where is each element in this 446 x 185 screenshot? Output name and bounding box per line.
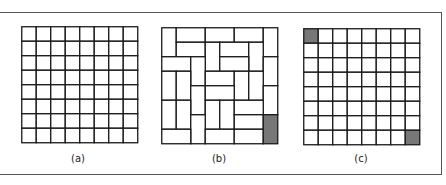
board-cell [51, 128, 66, 143]
board-cell [333, 87, 348, 102]
domino [263, 57, 278, 86]
board-cell [36, 128, 51, 143]
board-cell [94, 128, 109, 143]
board-cell [36, 27, 51, 42]
board-cell [65, 99, 80, 114]
domino [220, 57, 249, 72]
board-cell [391, 87, 406, 102]
board-cell [22, 114, 37, 129]
board-cell [376, 116, 391, 131]
board-cell [36, 41, 51, 56]
board-cell [36, 56, 51, 71]
board-cell [94, 85, 109, 100]
board-cell [347, 58, 362, 73]
board-cell [391, 130, 406, 145]
board-cell [22, 41, 37, 56]
board-cell [109, 99, 124, 114]
grid-c-mutilated-board [303, 28, 421, 146]
domino [220, 100, 235, 129]
board-cell [333, 101, 348, 116]
domino [263, 86, 278, 115]
domino [205, 42, 220, 71]
board-cell [94, 114, 109, 129]
domino [205, 100, 220, 129]
board-cell [94, 99, 109, 114]
domino [220, 42, 249, 57]
board-cell [80, 56, 95, 71]
board-cell [318, 43, 333, 58]
board-cell [304, 130, 319, 145]
board-cell [94, 56, 109, 71]
board-cell [405, 29, 420, 44]
board-cell [333, 130, 348, 145]
domino [263, 28, 278, 57]
domino [162, 71, 177, 100]
board-cell [318, 29, 333, 44]
board-cell [376, 101, 391, 116]
board-cell [123, 41, 138, 56]
board-cell [376, 72, 391, 87]
domino [205, 129, 234, 144]
board-cell [80, 85, 95, 100]
board-cell [405, 72, 420, 87]
board-cell [362, 72, 377, 87]
domino [234, 28, 263, 43]
board-cell [347, 29, 362, 44]
board-cell [405, 43, 420, 58]
board-cell [347, 87, 362, 102]
panel-label-a: (a) [58, 153, 98, 164]
board-cell [304, 58, 319, 73]
board-cell [318, 87, 333, 102]
board-cell [333, 29, 348, 44]
board-cell [405, 58, 420, 73]
board-cell [51, 56, 66, 71]
board-cell [109, 128, 124, 143]
board-cell [318, 116, 333, 131]
board-cell [65, 85, 80, 100]
board-cell [362, 58, 377, 73]
board-cell [22, 85, 37, 100]
board-cell [304, 101, 319, 116]
board-cell [405, 101, 420, 116]
grid-a-plain-board [21, 26, 139, 144]
board-cell [362, 29, 377, 44]
board-cell [36, 114, 51, 129]
board-cell [65, 56, 80, 71]
domino [234, 129, 263, 144]
board-cell [80, 41, 95, 56]
board-cell [36, 70, 51, 85]
domino [162, 28, 177, 57]
board-cell [123, 56, 138, 71]
domino [176, 100, 191, 129]
board-cell [22, 56, 37, 71]
board-cell [109, 41, 124, 56]
board-cell [51, 85, 66, 100]
grid-b-domino-tiling [161, 27, 279, 145]
board-cell [391, 29, 406, 44]
board-cell [109, 114, 124, 129]
board-cell [65, 70, 80, 85]
board-cell [80, 128, 95, 143]
board-cell [376, 43, 391, 58]
domino [205, 28, 234, 43]
board-cell [65, 27, 80, 42]
domino [234, 115, 263, 130]
domino [191, 86, 206, 115]
board-cell [391, 116, 406, 131]
board-cell [304, 87, 319, 102]
board-cell [376, 87, 391, 102]
board-cell [22, 70, 37, 85]
board-cell [405, 116, 420, 131]
board-cell [123, 70, 138, 85]
board-cell [347, 116, 362, 131]
board-cell [347, 43, 362, 58]
domino [205, 71, 234, 86]
board-cell [94, 27, 109, 42]
domino [249, 42, 264, 71]
board-cell [80, 99, 95, 114]
board-cell [123, 128, 138, 143]
board-cell [109, 70, 124, 85]
board-cell [318, 130, 333, 145]
board-cell [304, 72, 319, 87]
board-cell [376, 58, 391, 73]
